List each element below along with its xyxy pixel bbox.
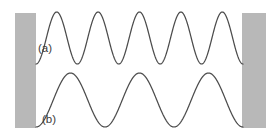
wave-a-curve bbox=[36, 12, 243, 64]
figure-canvas: (a) (b) bbox=[0, 0, 280, 136]
wave-b-label: (b) bbox=[42, 113, 56, 125]
standing-wave-figure: (a) (b) bbox=[0, 0, 280, 136]
left-wall bbox=[15, 13, 36, 128]
wave-a-label: (a) bbox=[38, 42, 52, 54]
wave-b-curve bbox=[36, 73, 243, 127]
right-wall bbox=[242, 13, 266, 128]
